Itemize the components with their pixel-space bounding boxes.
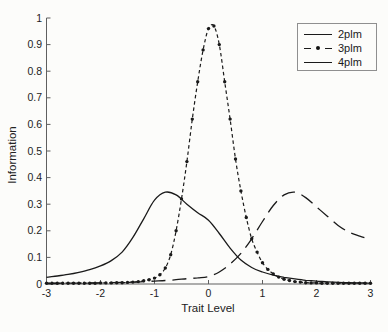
series-marker-3plm [288,279,291,282]
y-tick-label: 0.2 [27,224,42,236]
series-marker-3plm [266,268,269,271]
y-tick-label: 0.8 [27,65,42,77]
series-line-2plm [47,192,371,283]
x-tick-label: 3 [368,287,374,299]
legend-dot-marker-icon [316,46,320,50]
series-marker-3plm [50,282,53,285]
series-marker-3plm [250,237,253,240]
x-axis-title: Trait Level [58,302,358,314]
x-tick-label: -1 [150,287,159,299]
y-tick-label: 1 [36,12,42,24]
series-marker-3plm [115,281,118,284]
y-tick-label: 0.3 [27,198,42,210]
x-tick-label: -3 [42,287,51,299]
figure: -3-2-1012300.10.20.30.40.50.60.70.80.91 … [0,0,388,332]
series-marker-3plm [169,253,172,256]
series-marker-3plm [142,279,145,282]
series-marker-3plm [309,281,312,284]
series-marker-3plm [347,282,350,285]
series-marker-3plm [261,261,264,264]
series-marker-3plm [223,80,226,83]
series-marker-3plm [239,189,242,192]
y-tick-label: 0.5 [27,145,42,157]
y-tick-label: 0.4 [27,171,42,183]
series-marker-3plm [196,80,199,83]
series-marker-3plm [153,276,156,279]
series-marker-3plm [45,282,48,285]
series-marker-3plm [137,280,140,283]
series-marker-3plm [363,282,366,285]
series-marker-3plm [93,282,96,285]
series-marker-3plm [88,282,91,285]
series-marker-3plm [228,117,231,120]
series-marker-3plm [331,282,334,285]
series-marker-3plm [304,281,307,284]
series-marker-3plm [72,282,75,285]
y-tick-label: 0.1 [27,251,42,263]
series-marker-3plm [234,157,237,160]
series-marker-3plm [342,282,345,285]
x-tick-label: 1 [260,287,266,299]
series-marker-3plm [61,282,64,285]
series-marker-3plm [255,250,258,253]
series-marker-3plm [293,280,296,283]
y-tick-label: 0.7 [27,91,42,103]
series-marker-3plm [201,48,204,51]
series-marker-3plm [174,229,177,232]
series-marker-3plm [315,281,318,284]
series-marker-3plm [245,216,248,219]
y-tick-label: 0 [36,278,42,290]
y-axis-title: Information [6,126,18,184]
series-marker-3plm [120,281,123,284]
series-marker-3plm [180,197,183,200]
x-tick-label: -2 [96,287,105,299]
series-marker-3plm [282,278,285,281]
legend-label-2plm: 2plm [338,28,362,40]
series-marker-3plm [212,24,215,27]
series-marker-3plm [131,280,134,283]
series-marker-3plm [336,282,339,285]
series-marker-3plm [185,160,188,163]
y-tick-label: 0.9 [27,38,42,50]
legend-line-sample-dash-dot [304,46,332,50]
series-marker-3plm [207,27,210,30]
legend-item-3plm: 3plm [304,41,376,55]
series-marker-3plm [164,266,167,269]
series-marker-3plm [99,281,102,284]
series-marker-3plm [320,282,323,285]
legend-line-sample-solid [304,34,332,35]
series-marker-3plm [277,275,280,278]
series-marker-3plm [104,281,107,284]
y-tick-label: 0.6 [27,118,42,130]
x-tick-label: 2 [314,287,320,299]
series-marker-3plm [56,282,59,285]
series-marker-3plm [77,282,80,285]
series-marker-3plm [66,282,69,285]
series-marker-3plm [147,278,150,281]
legend-line-sample-long-dash [304,62,332,63]
legend-item-4plm: 4plm [304,55,376,69]
series-marker-3plm [191,117,194,120]
series-marker-3plm [353,282,356,285]
series-marker-3plm [126,281,129,284]
series-line-4plm [47,192,371,283]
series-marker-3plm [158,273,161,276]
series-marker-3plm [110,281,113,284]
series-marker-3plm [299,280,302,283]
series-marker-3plm [218,43,221,46]
series-marker-3plm [369,282,372,285]
series-marker-3plm [83,282,86,285]
legend: 2plm 3plm 4plm [297,23,377,71]
series-marker-3plm [358,282,361,285]
x-tick-label: 0 [206,287,212,299]
series-marker-3plm [272,272,275,275]
legend-item-2plm: 2plm [304,27,376,41]
legend-label-3plm: 3plm [338,42,362,54]
series-marker-3plm [326,282,329,285]
legend-label-4plm: 4plm [338,56,362,68]
